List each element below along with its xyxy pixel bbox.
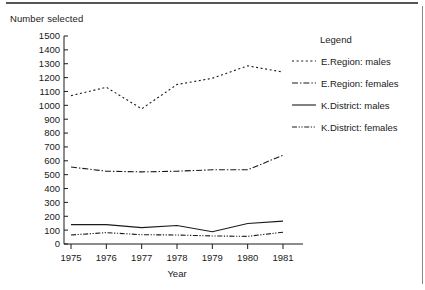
- series-line: [71, 232, 283, 236]
- y-tick-label: 300: [44, 197, 60, 208]
- y-tick-label: 100: [44, 225, 60, 236]
- y-tick-label: 400: [44, 183, 60, 194]
- y-tick-label: 1300: [39, 58, 60, 69]
- y-tick-label: 1100: [40, 86, 60, 97]
- y-tick-label: 700: [44, 141, 60, 152]
- x-tick-label: 1975: [60, 252, 81, 263]
- x-tick-label: 1980: [237, 252, 258, 263]
- dashed-line-icon: [292, 56, 316, 66]
- y-tick-label: 0: [55, 238, 60, 249]
- legend-entry-label: K.District: males: [321, 100, 390, 111]
- series-line: [71, 66, 283, 109]
- series-line: [71, 221, 283, 232]
- y-tick-label: 1400: [39, 44, 60, 55]
- y-tick-label: 500: [44, 169, 60, 180]
- y-tick-label: 900: [44, 114, 60, 125]
- legend-entry-label: E.Region: females: [321, 78, 399, 89]
- dash-dot-dot-line-icon: [292, 122, 316, 132]
- y-tick-label: 1000: [39, 100, 60, 111]
- dash-dot-line-icon: [292, 78, 316, 88]
- x-tick-label: 1979: [202, 252, 223, 263]
- chart-legend: Legend E.Region: malesE.Region: femalesK…: [292, 34, 424, 142]
- legend-entry: E.Region: females: [292, 76, 424, 90]
- legend-entry-label: E.Region: males: [321, 56, 391, 67]
- solid-line-icon: [292, 100, 316, 110]
- x-axis-title: Year: [167, 268, 186, 279]
- legend-entry: E.Region: males: [292, 54, 424, 68]
- x-tick-label: 1977: [131, 252, 152, 263]
- series-line: [71, 155, 283, 172]
- x-tick-label: 1981: [272, 252, 293, 263]
- legend-entry-list: E.Region: malesE.Region: femalesK.Distri…: [292, 54, 424, 134]
- legend-entry-label: K.District: females: [321, 122, 398, 133]
- legend-title: Legend: [320, 34, 424, 45]
- y-tick-label: 1200: [39, 72, 60, 83]
- y-tick-label: 200: [44, 211, 60, 222]
- y-tick-label: 1500: [39, 30, 60, 41]
- x-tick-label: 1976: [96, 252, 117, 263]
- x-tick-label: 1978: [166, 252, 187, 263]
- legend-entry: K.District: females: [292, 120, 424, 134]
- y-tick-label: 600: [44, 155, 60, 166]
- legend-entry: K.District: males: [292, 98, 424, 112]
- y-tick-label: 800: [44, 127, 60, 138]
